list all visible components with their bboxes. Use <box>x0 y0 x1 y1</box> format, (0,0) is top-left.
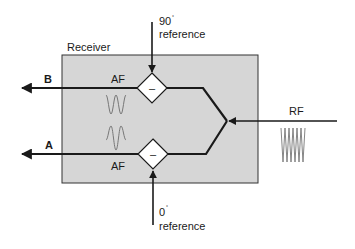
output-a-label: A <box>45 139 53 151</box>
ref-0-label: reference <box>159 220 205 232</box>
rf-waveform-icon <box>281 128 305 162</box>
ref-0-value: 0 <box>159 206 165 218</box>
af-label-bottom: AF <box>111 160 125 172</box>
receiver-diagram: Receiver B AF A AF RF 90 ° reference 0 °… <box>0 0 355 249</box>
ref-90-value: 90 <box>159 15 171 27</box>
ref-90-label: reference <box>159 28 205 40</box>
receiver-box <box>62 55 258 183</box>
mixer-bottom-symbol: – <box>150 148 157 160</box>
ref-0-degree: ° <box>166 204 168 210</box>
rf-label: RF <box>289 105 304 117</box>
ref-90-degree: ° <box>172 14 174 20</box>
receiver-label: Receiver <box>67 41 111 53</box>
mixer-top-symbol: – <box>149 82 156 94</box>
af-label-top: AF <box>111 73 125 85</box>
output-b-label: B <box>44 73 52 85</box>
